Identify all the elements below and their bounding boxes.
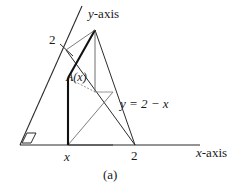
- line-equation-label: y = 2 − x: [120, 97, 169, 110]
- x-axis-label: x-axis: [196, 146, 227, 159]
- cross-section-right-edge: [68, 92, 113, 145]
- figure-caption: (a): [103, 168, 117, 181]
- y-axis-label-suffix: -axis: [94, 6, 119, 21]
- x-axis-label-suffix: -axis: [202, 145, 227, 160]
- area-function-label: A(x): [66, 71, 87, 83]
- y-axis-label: y-axis: [88, 7, 119, 20]
- figure-container: y-axis x-axis 2 A(x) y = 2 − x x 2 (a): [0, 0, 240, 195]
- x-tick-2-label: 2: [131, 149, 138, 162]
- line-y-equals-2-minus-x: [95, 30, 135, 145]
- x-tick-x-label: x: [64, 150, 70, 163]
- y-tick-2-label: 2: [49, 33, 56, 46]
